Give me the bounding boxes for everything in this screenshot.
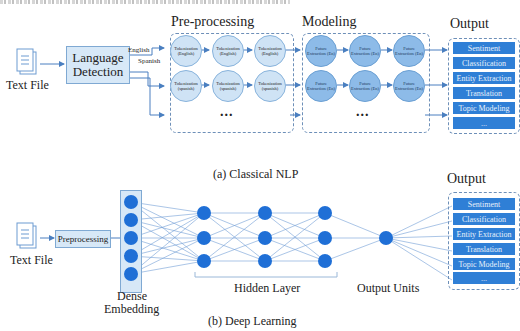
output-item: Translation [453,243,515,255]
hidden-node [197,231,211,245]
embedding-node [124,213,138,227]
hidden-node [318,231,332,245]
output-item: Sentiment [453,198,515,210]
output-title-b: Output [447,171,486,187]
output-group-b: Sentiment Classification Entity Extracti… [448,192,520,290]
preprocessing-box: Preprocessing [55,230,111,248]
embedding-node [124,231,138,245]
embedding-node [124,195,138,209]
output-item: Topic Modeling [453,258,515,270]
caption-deep: (b) Deep Learning [208,314,297,329]
text-file-icon [14,222,40,252]
output-item: Classification [453,213,515,225]
hidden-node [258,206,272,220]
hidden-node [318,206,332,220]
embedding-node [124,267,138,281]
hidden-node [197,254,211,268]
output-unit-node [379,231,393,245]
hidden-node [258,231,272,245]
text-file-label-b: Text File [10,253,53,268]
output-item: ... [453,272,515,284]
output-units-label: Output Units [357,281,419,296]
hidden-node [258,254,272,268]
hidden-node [318,254,332,268]
hidden-node [197,206,211,220]
hidden-layer-label: Hidden Layer [234,281,300,296]
embedding-node [124,249,138,263]
dense-embedding-label-2: Embedding [104,302,159,317]
output-item: Entity Extraction [453,228,515,240]
